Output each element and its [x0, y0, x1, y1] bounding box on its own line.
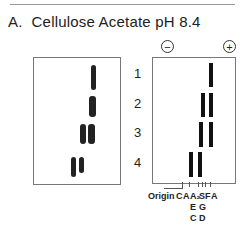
- marker-a: A: [183, 191, 190, 201]
- lane-label-2: 2: [134, 96, 141, 111]
- marker-d: D: [199, 213, 206, 223]
- marker-a-end: A: [211, 191, 218, 201]
- marker-f: F: [205, 191, 211, 201]
- marker-g: G: [199, 202, 206, 212]
- gel-schematic: [152, 57, 236, 184]
- band-lane4-s: [198, 152, 202, 177]
- band-lane3-s: [199, 122, 203, 147]
- band-lane2-a2: [201, 93, 205, 117]
- title-text: Cellulose Acetate pH 8.4: [32, 13, 201, 30]
- tick-c: [189, 182, 190, 187]
- positive-pole-icon: +: [223, 40, 236, 53]
- negative-pole-icon: −: [161, 40, 174, 53]
- gel-photo: [33, 57, 121, 185]
- band-lane4-c: [189, 152, 193, 177]
- lane-label-1: 1: [134, 66, 141, 81]
- band-lane1-a: [209, 63, 213, 87]
- lane-label-4: 4: [134, 155, 141, 170]
- lane-label-3: 3: [134, 125, 141, 140]
- band-lane2-a: [209, 93, 213, 117]
- tick-a: [210, 182, 211, 187]
- panel-label: A.: [8, 13, 23, 30]
- origin-leader: [164, 188, 182, 189]
- band-lane3-a: [209, 122, 213, 147]
- photo-band-3b: [88, 124, 95, 144]
- marker-e: E: [190, 202, 196, 212]
- top-rule: [10, 4, 235, 5]
- marker-c2: C: [190, 213, 197, 223]
- tick-origin: [182, 182, 183, 189]
- photo-band-1: [91, 65, 96, 90]
- figure-title: A.Cellulose Acetate pH 8.4: [8, 13, 201, 30]
- tick-f: [205, 182, 206, 187]
- marker-c: C: [176, 191, 183, 201]
- tick-a2: [198, 182, 199, 187]
- tick-s: [202, 182, 203, 187]
- photo-band-2: [89, 96, 96, 117]
- photo-band-4a: [71, 157, 76, 177]
- photo-band-3a: [80, 124, 86, 144]
- origin-label: Origin: [148, 191, 175, 201]
- photo-band-4b: [79, 157, 84, 173]
